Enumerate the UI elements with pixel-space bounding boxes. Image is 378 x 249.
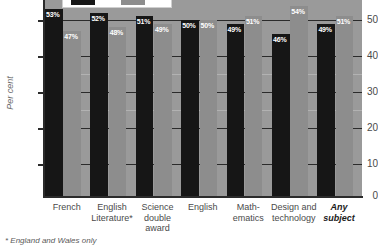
y-axis-line <box>43 0 45 197</box>
bar-series-1-group-4 <box>227 24 245 196</box>
bar-value-label-group-4-series-1: 49% <box>228 25 246 34</box>
bar-value-label-group-0-series-2: 47% <box>64 32 82 41</box>
x-axis-label-6: Anysubject <box>308 202 369 223</box>
bar-series-2-group-6 <box>336 16 354 196</box>
bar-value-label-group-5-series-1: 46% <box>273 35 291 44</box>
bar-series-1-group-5 <box>272 34 290 196</box>
bar-series-2-group-0 <box>63 31 81 196</box>
x-axis-label-line: Any <box>308 202 369 213</box>
bar-value-label-group-6-series-1: 49% <box>318 25 336 34</box>
bar-series-1-group-6 <box>317 24 335 196</box>
bar-series-2-group-5 <box>290 6 308 196</box>
x-axis-label-line: subject <box>308 213 369 224</box>
legend-swatch-series-2 <box>121 0 145 5</box>
bar-value-label-group-2-series-2: 49% <box>155 25 173 34</box>
bar-value-label-group-3-series-2: 50% <box>201 21 219 30</box>
bar-series-1-group-0 <box>45 9 63 196</box>
y-axis-title: Per cent <box>5 65 15 121</box>
legend <box>62 0 172 8</box>
bar-value-label-group-1-series-1: 52% <box>91 14 109 23</box>
bar-value-label-group-4-series-2: 51% <box>246 17 264 26</box>
bar-value-label-group-5-series-2: 54% <box>291 7 309 16</box>
bar-value-label-group-6-series-2: 51% <box>337 17 355 26</box>
bar-series-1-group-3 <box>181 20 199 196</box>
bar-value-label-group-3-series-1: 50% <box>182 21 200 30</box>
bar-value-label-group-0-series-1: 53% <box>46 10 64 19</box>
bar-series-2-group-1 <box>109 27 127 196</box>
bar-value-label-group-1-series-2: 48% <box>110 28 128 37</box>
bar-series-2-group-3 <box>200 20 218 196</box>
x-axis-line <box>43 196 363 198</box>
bar-value-label-group-2-series-1: 51% <box>137 17 155 26</box>
footnote: * England and Wales only <box>5 236 96 245</box>
bar-chart: Per cent 50 40 30 20 10 0 53%47%52%48%51… <box>0 0 378 249</box>
legend-swatch-series-1 <box>71 0 95 5</box>
bar-series-1-group-1 <box>90 13 108 196</box>
bar-series-1-group-2 <box>136 16 154 196</box>
bar-series-2-group-4 <box>245 16 263 196</box>
x-axis-label-line: double <box>127 213 188 224</box>
x-axis-label-line: award <box>127 223 188 234</box>
bar-series-2-group-2 <box>154 24 172 196</box>
